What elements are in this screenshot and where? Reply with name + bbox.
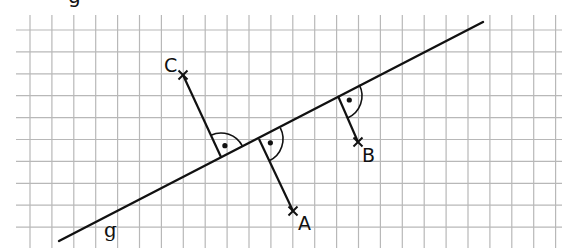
perpendicular-b — [338, 96, 358, 142]
grid-paper — [16, 15, 562, 248]
perpendicular-c — [183, 75, 221, 157]
point-c-label: C — [164, 56, 177, 75]
diagram-canvas — [0, 0, 567, 251]
point-b-label: B — [362, 146, 375, 165]
line-g-label: g — [104, 220, 117, 240]
right-angle-dot-icon — [347, 97, 352, 102]
point-a-label: A — [298, 214, 311, 233]
right-angle-dot-icon — [268, 140, 273, 145]
perpendicular-a — [259, 139, 293, 211]
cropped-heading-glyph: g — [68, 0, 81, 6]
right-angle-dot-icon — [222, 143, 227, 148]
